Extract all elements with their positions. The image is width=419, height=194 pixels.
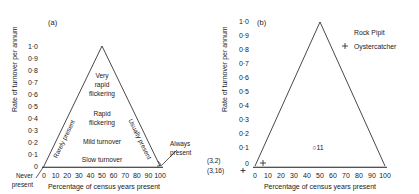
panel-b-ytick-0-4: 0·4 <box>239 102 249 109</box>
panel-b-ytick-0-8: 0·8 <box>239 46 249 53</box>
panel-b-xtick-0: 0 <box>253 172 257 179</box>
zone-very-rapid-flickering-line1: Very <box>95 72 109 80</box>
panel-a: (a) Rate of turnover per annum 1·0 0·9 0… <box>0 0 205 194</box>
panel-a-xtick-70: 70 <box>121 172 129 179</box>
corner-never-present-line1: Never <box>16 172 34 179</box>
panel-b-xtick-80: 80 <box>355 172 363 179</box>
panel-a-ytick-0-1: 0·1 <box>28 151 38 158</box>
zone-mild-turnover: Mild turnover <box>83 138 122 145</box>
panel-b-ytick-1-0: 1·0 <box>239 18 249 25</box>
panel-a-ytick-0-7: 0·7 <box>28 79 38 86</box>
zone-very-rapid-flickering-line3: flickering <box>89 90 115 98</box>
panel-a-xtick-10: 10 <box>52 172 60 179</box>
panel-a-ytick-1-0: 1·0 <box>28 43 38 50</box>
panel-a-ytick-0-8: 0·8 <box>28 67 38 74</box>
panel-a-xtick-20: 20 <box>63 172 71 179</box>
panel-a-ytick-0-2: 0·2 <box>28 139 38 146</box>
panel-b-xtick-90: 90 <box>368 172 376 179</box>
panel-b-svg: (b) Rate of turnover per annum 1·0 0·9 0… <box>205 0 419 194</box>
figure-container: (a) Rate of turnover per annum 1·0 0·9 0… <box>0 0 419 194</box>
count-rock-pipit: (3,2) <box>207 157 221 165</box>
panel-a-tag: (a) <box>48 18 58 27</box>
panel-b-xtick-30: 30 <box>290 172 298 179</box>
legend-circle-marker <box>343 30 347 34</box>
panel-b-xtick-50: 50 <box>316 172 324 179</box>
panel-a-xtick-80: 80 <box>133 172 141 179</box>
panel-b-ytick-0-2: 0·2 <box>239 130 249 137</box>
panel-a-ytick-0-6: 0·6 <box>28 91 38 98</box>
panel-a-xtick-60: 60 <box>110 172 118 179</box>
panel-b-xtick-10: 10 <box>264 172 272 179</box>
panel-a-ylabel: Rate of turnover per annum <box>11 26 19 112</box>
panel-b-ytick-0-3: 0·3 <box>239 116 249 123</box>
panel-a-xtick-90: 90 <box>145 172 153 179</box>
legend-label-rock-pipit: Rock Pipit <box>354 29 385 37</box>
panel-a-svg: (a) Rate of turnover per annum 1·0 0·9 0… <box>0 0 205 194</box>
panel-a-xtick-100: 100 <box>154 172 166 179</box>
panel-b-ytick-0: 0 <box>245 160 249 167</box>
panel-a-ytick-0-3: 0·3 <box>28 127 38 134</box>
panel-b-ytick-0-7: 0·7 <box>239 60 249 67</box>
panel-b-tag: (b) <box>257 18 267 27</box>
panel-b: (b) Rate of turnover per annum 1·0 0·9 0… <box>205 0 419 194</box>
panel-b-ylabel: Rate of turnover per annum <box>221 26 229 112</box>
panel-a-ytick-0-4: 0·4 <box>28 115 38 122</box>
panel-a-ytick-0-5: 0·5 <box>28 103 38 110</box>
interior-point-label: ○11 <box>312 144 324 151</box>
panel-b-xlabel: Percentage of census years present <box>264 183 376 191</box>
corner-never-present-line2: present <box>12 181 34 189</box>
panel-b-xtick-70: 70 <box>342 172 350 179</box>
panel-b-ytick-0-6: 0·6 <box>239 74 249 81</box>
panel-a-ytick-0: 0 <box>34 163 38 170</box>
panel-a-xtick-50: 50 <box>98 172 106 179</box>
panel-a-xtick-40: 40 <box>87 172 95 179</box>
panel-a-xtick-30: 30 <box>75 172 83 179</box>
panel-b-xtick-20: 20 <box>277 172 285 179</box>
count-oystercatcher: (3,16) <box>207 167 224 175</box>
panel-a-xtick-0: 0 <box>42 172 46 179</box>
zone-slow-turnover: Slow turnover <box>82 156 123 163</box>
panel-a-ytick-0-9: 0·9 <box>28 55 38 62</box>
legend-label-oystercatcher: Oystercatcher <box>354 43 397 51</box>
panel-b-ytick-0-1: 0·1 <box>239 144 249 151</box>
panel-b-ytick-0-9: 0·9 <box>239 32 249 39</box>
panel-b-ytick-0-5: 0·5 <box>239 88 249 95</box>
panel-b-xtick-100: 100 <box>379 172 391 179</box>
zone-rapid-flickering-line1: Rapid <box>93 110 111 118</box>
panel-b-xtick-60: 60 <box>329 172 337 179</box>
zone-very-rapid-flickering-line2: rapid <box>95 81 110 89</box>
panel-a-xlabel: Percentage of census years present <box>48 183 160 191</box>
corner-always-present-line2: present <box>170 149 192 157</box>
zone-rapid-flickering-line2: flickering <box>89 119 115 127</box>
corner-always-present-line1: Always <box>170 140 190 148</box>
panel-b-xtick-40: 40 <box>303 172 311 179</box>
